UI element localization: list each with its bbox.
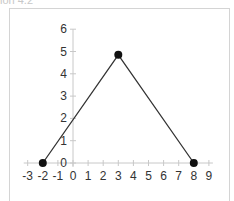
x-tick-label: 5	[145, 169, 152, 183]
x-tick-label: 6	[160, 169, 167, 183]
y-tick-label: 4	[60, 67, 67, 81]
tick-labels: -3-2-101234567890123456	[22, 22, 212, 183]
x-tick-label: 1	[85, 169, 92, 183]
y-tick-label: 3	[60, 89, 67, 103]
y-tick-label: 2	[60, 111, 67, 125]
x-tick-label: 2	[100, 169, 107, 183]
x-tick-label: 9	[206, 169, 213, 183]
data-point	[114, 51, 122, 59]
x-tick-label: -2	[37, 169, 48, 183]
x-tick-label: 4	[130, 169, 137, 183]
data-point	[190, 159, 198, 167]
x-tick-label: 7	[175, 169, 182, 183]
axes	[24, 29, 213, 167]
x-tick-label: -3	[22, 169, 33, 183]
y-tick-label: 0	[60, 156, 67, 170]
line-chart: -3-2-101234567890123456	[0, 0, 234, 201]
x-tick-label: 8	[190, 169, 197, 183]
x-tick-label: 0	[70, 169, 77, 183]
y-tick-label: 5	[60, 45, 67, 59]
x-tick-label: 3	[115, 169, 122, 183]
y-tick-label: 6	[60, 22, 67, 36]
data-point	[39, 159, 47, 167]
x-tick-label: -1	[53, 169, 64, 183]
